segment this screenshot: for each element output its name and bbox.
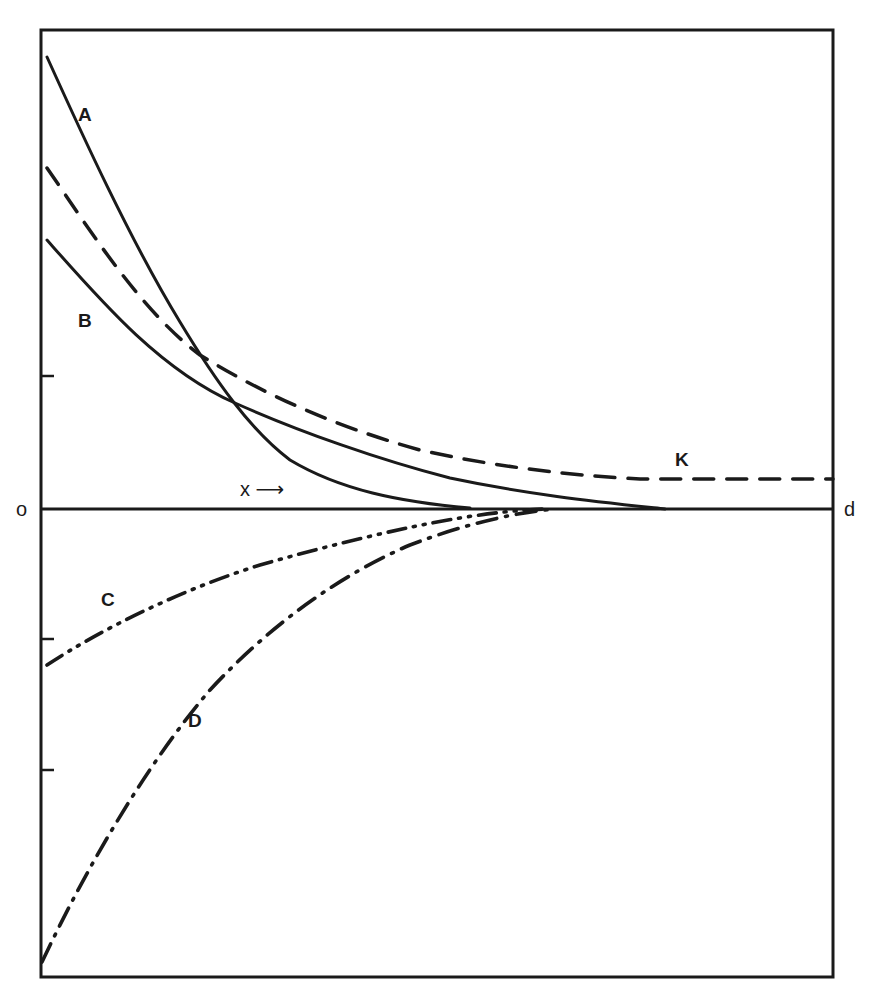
- label-b: B: [78, 310, 92, 331]
- label-k: K: [675, 449, 689, 470]
- curve-b: [47, 240, 665, 509]
- origin-label: o: [16, 498, 27, 520]
- label-c: C: [101, 589, 115, 610]
- label-a: A: [78, 104, 92, 125]
- end-label: d: [844, 498, 855, 520]
- curve-a: [47, 57, 470, 508]
- chart: A B K C D o d x ⟶: [0, 0, 871, 992]
- curve-k: [47, 168, 833, 479]
- x-direction-label: x ⟶: [240, 478, 284, 500]
- curve-c: [47, 509, 545, 665]
- curve-d: [42, 509, 555, 962]
- label-d: D: [188, 710, 202, 731]
